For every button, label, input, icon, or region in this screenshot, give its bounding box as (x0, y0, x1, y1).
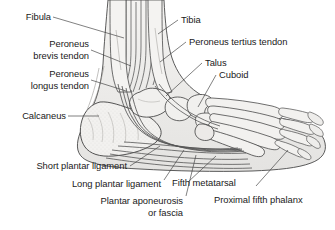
label-fifth-metatarsal: Fifth metatarsal (172, 177, 236, 188)
label-talus: Talus (205, 57, 227, 68)
label-plantar-aponeurosis-line2: or fascia (0, 207, 183, 218)
label-tibia: Tibia (181, 14, 201, 25)
label-proximal-fifth-phalanx: Proximal fifth phalanx (214, 194, 303, 205)
label-peroneus-longus-tendon-line2: longus tendon (0, 80, 89, 91)
label-calcaneus: Calcaneus (0, 110, 66, 121)
label-peroneus-longus-tendon-line1: Peroneus (0, 68, 89, 79)
label-fibula: Fibula (0, 11, 51, 22)
foot-anatomy-figure: Fibula Peroneus brevis tendon Peroneus l… (0, 0, 335, 230)
label-cuboid: Cuboid (219, 69, 248, 80)
label-short-plantar-ligament: Short plantar ligament (0, 160, 127, 171)
label-peroneus-brevis-tendon-line2: brevis tendon (0, 50, 89, 61)
label-plantar-aponeurosis-line1: Plantar aponeurosis (0, 195, 183, 206)
label-long-plantar-ligament: Long plantar ligament (0, 178, 161, 189)
label-peroneus-brevis-tendon-line1: Peroneus (0, 38, 89, 49)
label-peroneus-tertius-tendon: Peroneus tertius tendon (189, 36, 287, 47)
